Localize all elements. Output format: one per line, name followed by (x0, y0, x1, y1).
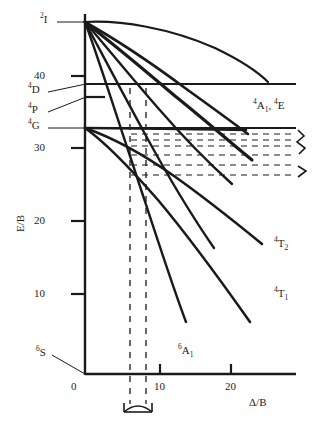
tanabe-sugano-diagram: 2I 4D 4P 4G 6S 40 30 20 10 0 10 20 E/B Δ… (0, 0, 330, 426)
leader-4P (48, 97, 86, 112)
curve-label-4A1-4E: 4A1, 4E (253, 100, 284, 111)
x-axis-title: Δ/B (249, 396, 266, 408)
span-marker (124, 403, 152, 412)
x-tick-label-20: 20 (225, 380, 236, 392)
axes (71, 14, 296, 375)
term-label-4G: 4G (28, 120, 40, 131)
curve-label-4T2: 4T2 (274, 238, 288, 249)
term-label-2I: 2I (40, 14, 47, 25)
curve-label-6A1: 6A1 (178, 345, 193, 356)
band-squiggle-markers (297, 130, 306, 177)
y-tick-label-10: 10 (34, 287, 45, 299)
span-curve (124, 406, 152, 412)
x-tick-label-0: 0 (71, 380, 77, 392)
y-axis-title: E/B (14, 215, 26, 232)
term-label-6S: 6S (36, 347, 46, 358)
squiggle-lower (298, 166, 306, 177)
chart-canvas (0, 0, 330, 426)
x-tick-label-10: 10 (154, 380, 165, 392)
y-tick-label-30: 30 (34, 141, 45, 153)
curve-4A1-4E (85, 128, 246, 130)
leader-6S (52, 355, 85, 374)
span-arch (124, 403, 152, 412)
curve-4T1 (85, 128, 250, 322)
term-label-4D: 4D (28, 84, 40, 95)
term-curves (85, 22, 268, 322)
squiggle-upper (297, 130, 305, 154)
vertical-guides (130, 88, 146, 404)
y-tick-label-20: 20 (34, 214, 45, 226)
term-label-4P: 4P (28, 104, 38, 115)
curve-label-4T1: 4T1 (274, 288, 288, 299)
leader-4D (48, 84, 86, 92)
free-ion-leader-lines (48, 22, 86, 374)
curve-2I-f (85, 22, 186, 322)
y-tick-label-40: 40 (34, 69, 45, 81)
